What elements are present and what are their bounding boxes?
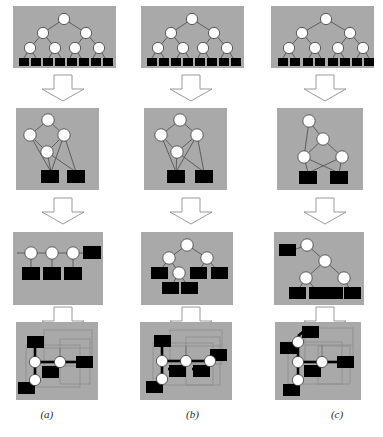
figure-column-a: (a) — [0, 0, 128, 437]
arrow-b-2 — [169, 197, 213, 225]
figure-column-b: (b) — [128, 0, 256, 437]
figure-column-c: (c) — [255, 0, 383, 437]
arrow-c-1 — [303, 74, 347, 102]
panel-a-stage-4-embedded-layout — [16, 322, 98, 400]
panel-b-stage-3-chain-graph — [141, 232, 233, 305]
panel-b-stage-1-balanced-tree — [141, 6, 244, 68]
arrow-a-2 — [41, 197, 85, 225]
panel-b-stage-2-contracted-graph — [144, 108, 227, 190]
panel-a-stage-3-chain-graph — [13, 232, 103, 305]
caption-c: (c) — [273, 408, 383, 420]
arrow-c-2 — [303, 197, 347, 225]
panel-a-stage-1-balanced-tree — [13, 6, 116, 68]
circle-node-group — [25, 247, 79, 259]
panel-c-stage-1-balanced-tree — [271, 6, 374, 68]
panel-c-stage-4-embedded-layout — [275, 322, 361, 400]
panel-c-stage-2-contracted-graph — [277, 108, 363, 190]
arrow-a-1 — [41, 74, 85, 102]
figure-container: (a) — [0, 0, 383, 437]
panel-c-stage-3-chain-graph — [274, 232, 364, 305]
caption-a: (a) — [0, 408, 111, 420]
caption-b: (b) — [129, 408, 257, 420]
arrow-b-1 — [169, 74, 213, 102]
panel-a-stage-2-contracted-graph — [16, 108, 99, 190]
panel-b-stage-4-embedded-layout — [140, 322, 232, 400]
